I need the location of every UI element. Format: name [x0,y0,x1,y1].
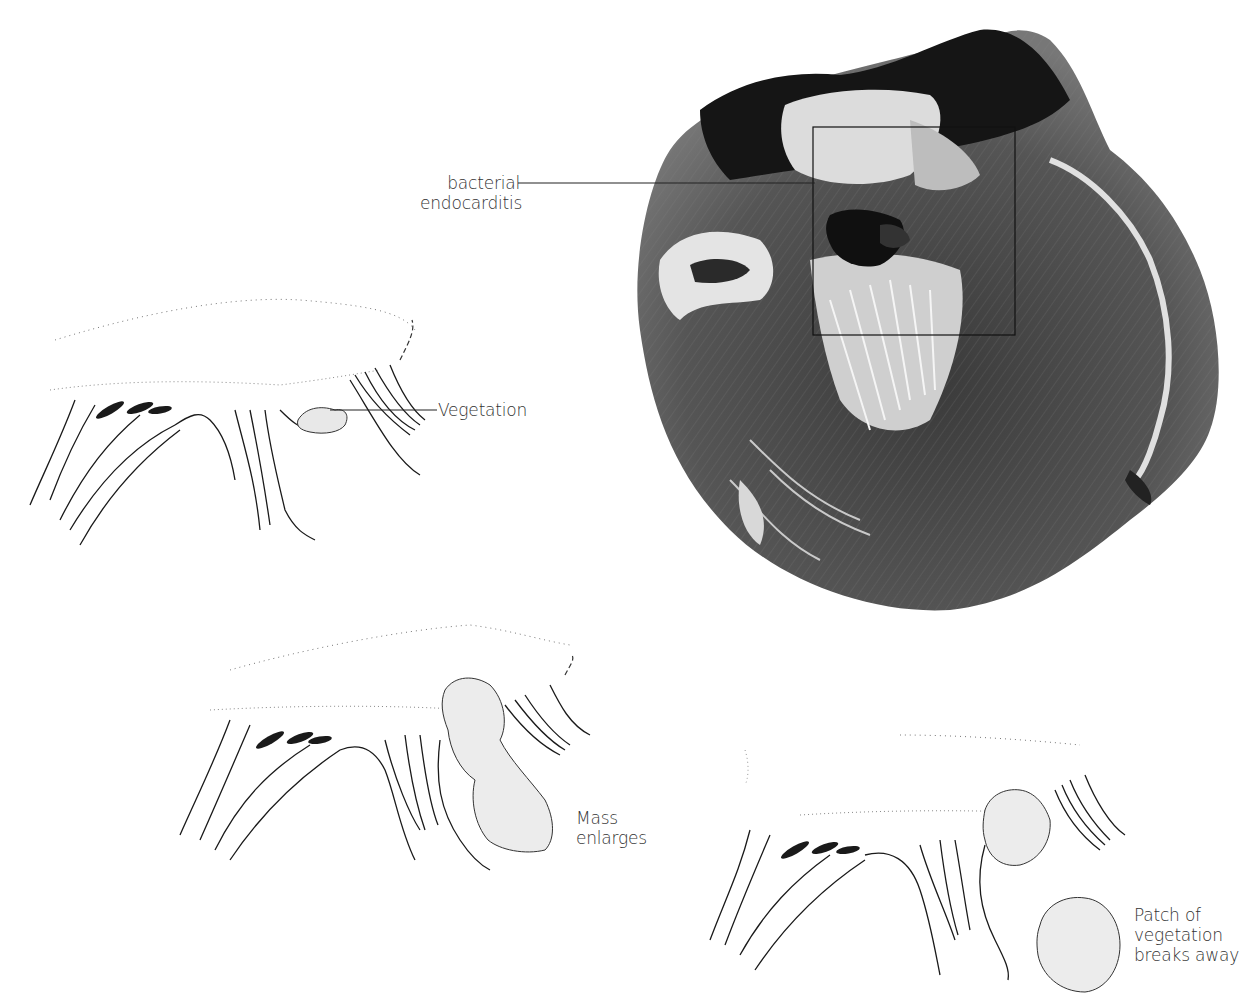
valve-mass-enlarges-drawing [170,610,660,900]
label-line-1: Patch of [1134,905,1239,925]
label-line-1: Mass [576,808,647,828]
label-line-2: vegetation [1134,925,1239,945]
label-vegetation: Vegetation [438,400,527,420]
label-mass-enlarges: Mass enlarges [576,808,647,848]
valve-patch-breaks-away-drawing [700,730,1140,1006]
label-line-3: breaks away [1134,945,1239,965]
label-patch-breaks-away: Patch of vegetation breaks away [1134,905,1239,965]
label-line-2: enlarges [576,828,647,848]
stage-3-drawing [700,730,1140,1006]
stage-2-drawing [170,610,660,900]
